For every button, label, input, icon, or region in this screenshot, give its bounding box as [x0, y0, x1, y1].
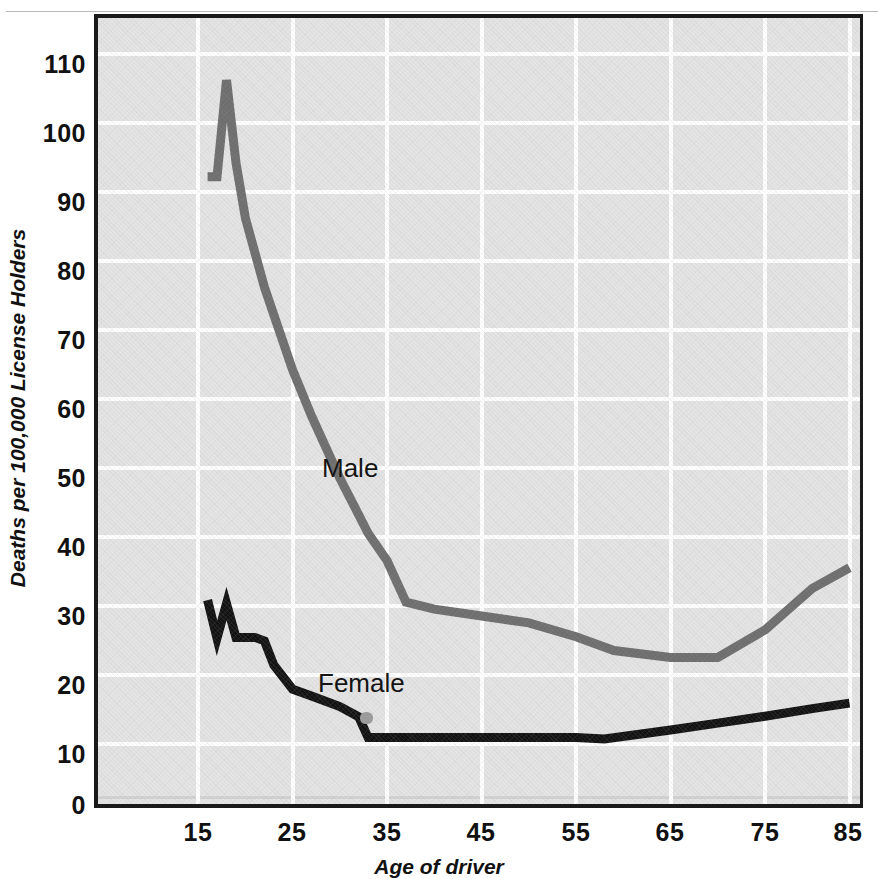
x-tick-15: 15 — [184, 818, 213, 847]
x-axis-title: Age of driver — [0, 855, 878, 879]
x-tick-65: 65 — [656, 818, 685, 847]
x-tick-25: 25 — [278, 818, 307, 847]
y-axis-title: Deaths per 100,000 License Holders — [6, 58, 30, 758]
plot-area — [94, 14, 863, 808]
x-tick-85: 85 — [834, 818, 863, 847]
x-tick-75: 75 — [751, 818, 780, 847]
series-label-female: Female — [318, 668, 405, 699]
y-tick-0: 0 — [2, 791, 86, 820]
scan-speck — [360, 712, 373, 724]
series-label-male: Male — [322, 453, 378, 484]
x-tick-45: 45 — [467, 818, 496, 847]
plot-canvas — [98, 18, 860, 804]
series-line-male — [208, 80, 850, 657]
scan-artifact-rule — [6, 11, 878, 12]
x-axis-ticks: 15 25 35 45 55 65 75 85 — [0, 818, 878, 852]
x-tick-35: 35 — [373, 818, 402, 847]
horizontal-gridlines — [98, 54, 860, 797]
x-tick-55: 55 — [562, 818, 591, 847]
